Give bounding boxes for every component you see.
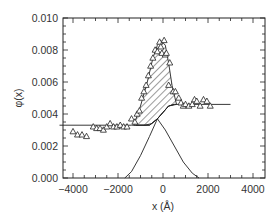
x-axis-label: x (Å): [152, 200, 174, 212]
x-tick-label: −2000: [103, 183, 133, 195]
y-tick-label: 0.006: [32, 76, 58, 88]
triangle-marker: [79, 132, 85, 137]
y-axis-label: φ(x): [12, 88, 24, 107]
y-tick-label: 0.000: [32, 172, 58, 184]
chart: −4000−2000020004000 0.0000.0020.0040.006…: [0, 0, 278, 222]
triangle-marker: [107, 120, 113, 125]
x-tick-label: 0: [160, 183, 166, 195]
y-tick-label: 0.008: [32, 44, 58, 56]
y-tick-label: 0.004: [32, 108, 58, 120]
y-tick-label: 0.002: [32, 140, 58, 152]
y-tick-label: 0.010: [32, 12, 58, 24]
triangle-marker: [161, 37, 167, 42]
x-tick-label: 2000: [196, 183, 220, 195]
falling-sigmoid-line: [136, 119, 199, 178]
triangle-marker: [70, 128, 76, 133]
x-tick-label: 4000: [241, 183, 265, 195]
x-tick-label: −4000: [58, 183, 88, 195]
